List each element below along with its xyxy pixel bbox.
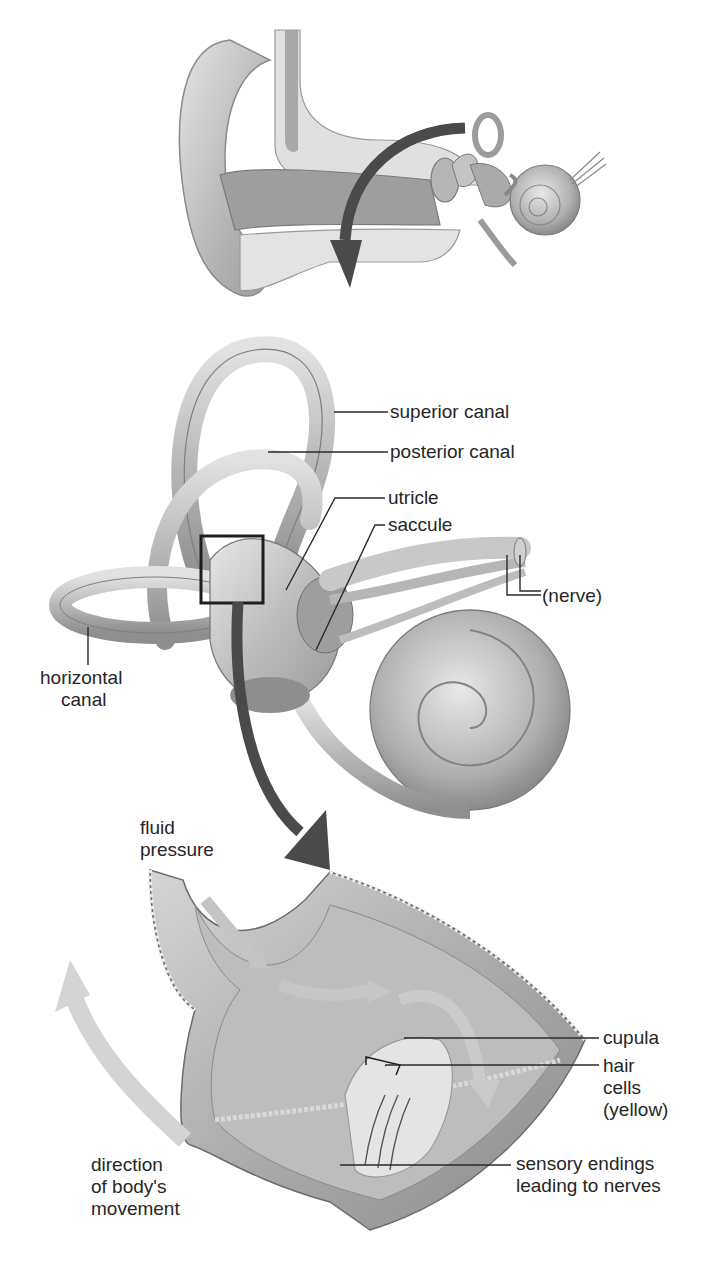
label-posterior-canal: posterior canal: [390, 441, 515, 463]
label-saccule: saccule: [388, 514, 452, 536]
label-nerve: (nerve): [542, 585, 602, 607]
label-hair-cells: hair cells (yellow): [603, 1055, 668, 1121]
label-fluid-pressure-line1: fluid: [140, 817, 214, 839]
label-horizontal-canal-line2: canal: [40, 689, 122, 711]
label-sensory-endings-line1: sensory endings: [516, 1153, 661, 1175]
label-hair-cells-line3: (yellow): [603, 1099, 668, 1121]
label-fluid-pressure-line2: pressure: [140, 839, 214, 861]
label-utricle: utricle: [388, 487, 439, 509]
label-hair-cells-line2: cells: [603, 1077, 668, 1099]
label-horizontal-canal-line1: horizontal: [40, 667, 122, 689]
inner-ear-illustration: [60, 349, 570, 870]
label-sensory-endings-line2: leading to nerves: [516, 1175, 661, 1197]
label-fluid-pressure: fluid pressure: [140, 817, 214, 861]
label-horizontal-canal: horizontal canal: [40, 667, 122, 711]
label-superior-canal: superior canal: [390, 401, 509, 423]
label-body-movement: direction of body's movement: [91, 1154, 180, 1220]
label-hair-cells-line1: hair: [603, 1055, 668, 1077]
outer-ear-illustration: [179, 30, 606, 296]
label-body-movement-line2: of body's: [91, 1176, 180, 1198]
label-body-movement-line3: movement: [91, 1198, 180, 1220]
label-sensory-endings: sensory endings leading to nerves: [516, 1153, 661, 1197]
label-cupula: cupula: [603, 1027, 659, 1049]
label-body-movement-line1: direction: [91, 1154, 180, 1176]
